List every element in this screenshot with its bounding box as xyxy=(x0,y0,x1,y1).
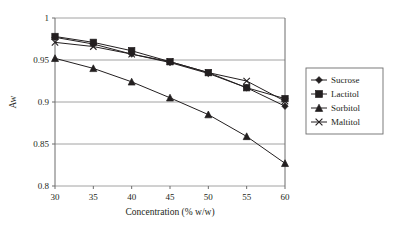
x-tick-label: 45 xyxy=(166,192,176,202)
legend-item-lactitol[interactable]: Lactitol xyxy=(311,89,359,99)
legend-label-maltitol: Maltitol xyxy=(331,117,360,127)
x-tick-label: 50 xyxy=(204,192,214,202)
legend-label-lactitol: Lactitol xyxy=(331,89,359,99)
tick-marks xyxy=(52,18,285,189)
y-axis-tick-labels: 0.80.850.90.951 xyxy=(33,13,49,191)
chart-figure: 0.80.850.90.951 30354045505560 Concentra… xyxy=(0,0,394,234)
y-axis-title: Aw xyxy=(8,95,18,108)
y-tick-label: 0.8 xyxy=(38,181,50,191)
legend-item-sorbitol[interactable]: Sorbitol xyxy=(311,103,361,113)
series-lactitol xyxy=(52,33,288,102)
legend: SucroseLactitolSorbitolMaltitol xyxy=(306,68,383,134)
x-tick-label: 55 xyxy=(242,192,252,202)
y-tick-label: 1 xyxy=(45,13,50,23)
data-series xyxy=(52,33,289,166)
y-tick-label: 0.85 xyxy=(33,139,49,149)
series-line-sorbitol xyxy=(55,58,285,163)
y-tick-label: 0.9 xyxy=(38,97,50,107)
x-axis-tick-labels: 30354045505560 xyxy=(51,192,291,202)
legend-label-sorbitol: Sorbitol xyxy=(331,103,361,113)
legend-label-sucrose: Sucrose xyxy=(331,75,360,85)
x-tick-label: 40 xyxy=(127,192,137,202)
data-point-sorbitol xyxy=(243,133,250,140)
data-point-lactitol xyxy=(243,85,249,91)
data-point-sorbitol xyxy=(167,94,174,101)
y-tick-label: 0.95 xyxy=(33,55,49,65)
data-point-lactitol xyxy=(52,33,58,39)
data-point-legend-lactitol xyxy=(316,91,323,98)
x-axis-title: Concentration (% w/w) xyxy=(125,207,214,218)
data-point-sorbitol xyxy=(52,55,59,62)
x-tick-label: 35 xyxy=(89,192,99,202)
data-point-lactitol xyxy=(128,48,134,54)
data-point-sorbitol xyxy=(282,160,289,167)
data-point-sorbitol xyxy=(205,111,212,118)
series-sorbitol xyxy=(52,55,289,167)
aw-concentration-line-chart: 0.80.850.90.951 30354045505560 Concentra… xyxy=(0,0,394,234)
data-point-sorbitol xyxy=(128,78,135,85)
x-tick-label: 30 xyxy=(51,192,61,202)
x-tick-label: 60 xyxy=(281,192,291,202)
